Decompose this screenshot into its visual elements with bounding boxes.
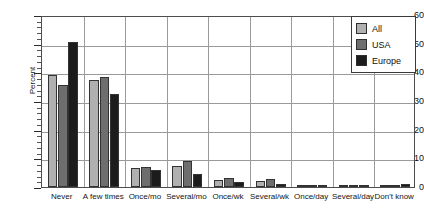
legend-item-label: USA <box>372 40 391 50</box>
bar <box>266 179 276 187</box>
bar <box>307 185 317 187</box>
y-tick-major <box>34 16 41 17</box>
x-tick-label: Once/wk <box>207 192 249 202</box>
chart-legend: AllUSAEurope <box>351 16 416 73</box>
bar <box>68 42 78 187</box>
bar <box>183 161 193 187</box>
x-tick-label: Several/mo <box>166 192 208 202</box>
legend-swatch-icon <box>356 23 367 34</box>
bar <box>390 185 400 187</box>
bar <box>131 168 141 187</box>
legend-swatch-icon <box>356 39 367 50</box>
x-tick-label: Several/wk <box>249 192 291 202</box>
bar <box>276 184 286 187</box>
bar <box>100 77 110 187</box>
x-tick-label: Several/day <box>332 192 374 202</box>
legend-item-label: All <box>372 24 382 34</box>
bar <box>318 185 328 187</box>
bar <box>110 94 120 187</box>
bar-group <box>125 17 167 187</box>
legend-swatch-icon <box>356 55 367 66</box>
bar <box>297 185 307 187</box>
y-tick-major <box>34 131 41 132</box>
x-tick-label: Once/mo <box>124 192 166 202</box>
bar <box>172 166 182 188</box>
legend-item[interactable]: All <box>356 21 412 36</box>
bar <box>339 185 349 187</box>
bar-group <box>208 17 250 187</box>
bar <box>151 170 161 187</box>
bar-group <box>291 17 333 187</box>
bar <box>349 185 359 187</box>
bar <box>193 174 203 187</box>
bar <box>401 184 411 187</box>
bar <box>380 185 390 187</box>
y-tick-major <box>34 188 41 189</box>
x-tick-label: Don't know <box>373 192 415 202</box>
x-tick-label: A few times <box>83 192 125 202</box>
bar-group <box>167 17 209 187</box>
legend-item[interactable]: USA <box>356 37 412 52</box>
x-tick-label: Once/day <box>290 192 332 202</box>
y-tick-major <box>34 45 41 46</box>
x-tick-label: Never <box>41 192 83 202</box>
bar <box>58 85 68 187</box>
bar <box>214 180 224 187</box>
legend-item-label: Europe <box>372 56 401 66</box>
y-tick-major <box>34 73 41 74</box>
bar-group <box>250 17 292 187</box>
y-tick-major <box>34 159 41 160</box>
bar <box>89 80 99 188</box>
legend-item[interactable]: Europe <box>356 53 412 68</box>
bar-group <box>42 17 84 187</box>
bar <box>256 181 266 187</box>
bar <box>224 178 234 187</box>
bar <box>48 75 58 187</box>
bar-group <box>84 17 126 187</box>
y-tick-major <box>34 102 41 103</box>
bar-chart: Percent 0102030405060 NeverA few timesOn… <box>0 0 424 220</box>
bar <box>234 182 244 187</box>
bar <box>359 185 369 187</box>
bar <box>141 167 151 187</box>
